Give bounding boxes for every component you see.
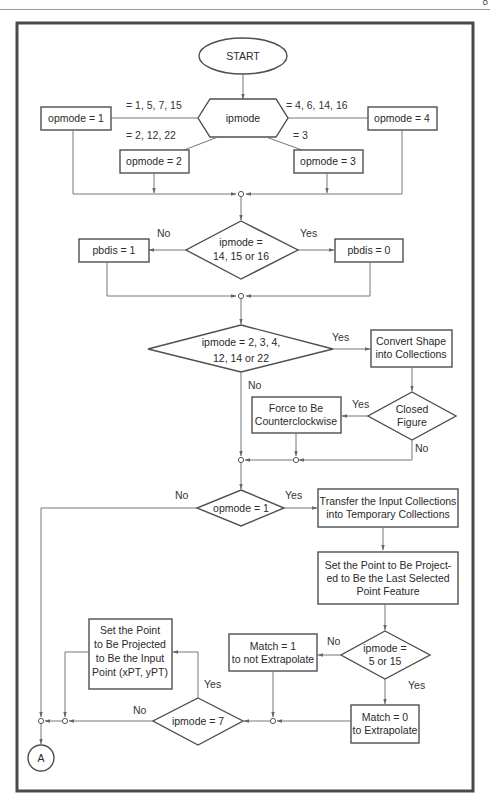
force-ccw-box: Force to Be Counterclockwise (252, 397, 341, 433)
branch-label-left-top: = 1, 5, 7, 15 (126, 99, 182, 111)
branch-label-right-top: = 4, 6, 14, 16 (286, 99, 348, 111)
pbdis-yes-label: Yes (300, 227, 317, 239)
match0-line1: Match = 0 (362, 711, 409, 723)
decision-shape-modes: ipmode = 2, 3, 4, 12, 14 or 22 (148, 325, 333, 372)
pbdis-0-label: pbdis = 0 (348, 244, 391, 256)
closed-no-label: No (415, 442, 429, 454)
off-page-connector-a: A (28, 745, 54, 771)
set-point-input-box: Set the Point to Be Projected to Be the … (89, 619, 172, 689)
decision-pbdis-line2: 14, 15 or 16 (213, 250, 269, 262)
set-point-last-selected-box: Set the Point to Be Project- ed to Be th… (318, 552, 458, 604)
decision-opmode1-label: opmode = 1 (213, 502, 269, 514)
junction-6 (62, 718, 67, 723)
decision-pbdis: ipmode = 14, 15 or 16 (186, 221, 298, 279)
shape-no-label: No (248, 379, 262, 391)
opmode-1-box: opmode = 1 (41, 107, 111, 130)
match0-line2: to Extrapolate (353, 724, 418, 736)
transfer-line1: Transfer the Input Collections (320, 495, 457, 507)
junction-7 (38, 718, 43, 723)
decision-pbdis-line1: ipmode = (219, 236, 263, 248)
pbdis-1-box: pbdis = 1 (79, 239, 149, 262)
setpoint-last-line1: Set the Point to Be Project- (325, 559, 452, 571)
decision-closed-figure: Closed Figure (368, 392, 456, 440)
pbdis-1-label: pbdis = 1 (93, 244, 136, 256)
convert-box-line2: into Collections (375, 348, 446, 360)
junction-3 (293, 457, 298, 462)
convert-shape-box: Convert Shape into Collections (371, 330, 452, 367)
branch-label-right-bottom: = 3 (293, 129, 308, 141)
closed-yes-label: Yes (352, 398, 369, 410)
match-1-box: Match = 1 to not Extrapolate (229, 634, 317, 671)
branch-label-left-bottom: = 2, 12, 22 (126, 129, 176, 141)
decision-opmode-1: opmode = 1 (197, 490, 284, 526)
start-terminal: START (199, 38, 287, 74)
start-label: START (226, 50, 260, 62)
decision-ipmode7-label: ipmode = 7 (172, 715, 224, 727)
transfer-line2: into Temporary Collections (326, 508, 450, 520)
pbdis-no-label: No (157, 227, 171, 239)
match1-line1: Match = 1 (250, 640, 297, 652)
ipmode7-no-label: No (133, 704, 147, 716)
junction-5 (270, 718, 275, 723)
junction-2 (238, 293, 243, 298)
setpoint-input-line2: to Be Projected (94, 638, 166, 650)
force-box-line2: Counterclockwise (255, 415, 337, 427)
opmode-3-box: opmode = 3 (294, 150, 363, 173)
opmode-2-label: opmode = 2 (126, 155, 182, 167)
ipmode-switch-hexagon: ipmode (198, 99, 288, 137)
convert-box-line1: Convert Shape (376, 335, 446, 347)
decision-ipmode-5-15: ipmode = 5 or 15 (341, 631, 430, 679)
decision-ipmode-7: ipmode = 7 (153, 698, 243, 745)
shape-yes-label: Yes (332, 331, 349, 343)
junction-4 (238, 457, 243, 462)
opmode-3-label: opmode = 3 (300, 155, 356, 167)
closed-line2: Figure (397, 416, 427, 428)
decision-shape-line2: 12, 14 or 22 (213, 352, 269, 364)
opmode1-no-label: No (175, 489, 189, 501)
setpoint-last-line3: Point Feature (356, 585, 419, 597)
opmode-4-box: opmode = 4 (368, 107, 437, 130)
pbdis-0-box: pbdis = 0 (335, 239, 403, 262)
setpoint-input-line3: to Be the Input (96, 652, 164, 664)
flowchart: START ipmode = 1, 5, 7, 15 = 2, 12, 22 =… (0, 0, 490, 803)
decision-5-15-line2: 5 or 15 (369, 655, 402, 667)
opmode-4-label: opmode = 4 (374, 112, 430, 124)
opmode-1-label: opmode = 1 (48, 112, 104, 124)
opmode1-yes-label: Yes (285, 489, 302, 501)
force-box-line1: Force to Be (269, 402, 323, 414)
decision-shape-line1: ipmode = 2, 3, 4, (202, 336, 281, 348)
setpoint-last-line2: ed to Be the Last Selected (326, 572, 449, 584)
transfer-collections-box: Transfer the Input Collections into Temp… (318, 489, 458, 527)
decision-5-15-line1: ipmode = (363, 642, 407, 654)
ipmode7-yes-label: Yes (204, 678, 221, 690)
ipmode-switch-label: ipmode (226, 112, 261, 124)
junction-1 (238, 191, 243, 196)
match1-line2: to not Extrapolate (232, 653, 314, 665)
5-15-no-label: No (327, 635, 341, 647)
setpoint-input-line1: Set the Point (100, 624, 160, 636)
closed-line1: Closed (396, 403, 429, 415)
connector-a-label: A (37, 752, 44, 764)
opmode-2-box: opmode = 2 (120, 150, 189, 173)
5-15-yes-label: Yes (408, 679, 425, 691)
setpoint-input-line4: Point (xPT, yPT) (92, 666, 168, 678)
match-0-box: Match = 0 to Extrapolate (351, 705, 419, 743)
